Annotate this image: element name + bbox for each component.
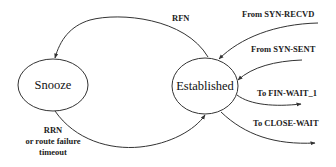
label-rrn-line3: timeout — [39, 147, 67, 157]
label-rrn-line2: or route failure — [25, 136, 80, 146]
edge-rfn — [55, 17, 208, 58]
label-from-syn-recvd: From SYN-RECVD — [242, 9, 314, 19]
edge-from-syn-sent — [238, 60, 302, 80]
label-rrn-line1: RRN — [44, 125, 63, 135]
state-established-label: Established — [176, 79, 234, 93]
label-from-syn-sent: From SYN-SENT — [251, 44, 316, 54]
label-to-fin-wait-1: To FIN-WAIT_1 — [257, 88, 317, 98]
state-diagram: RFN RRN or route failure timeout From SY… — [0, 0, 336, 167]
state-snooze-label: Snooze — [35, 78, 72, 92]
label-to-close-wait: To CLOSE-WAIT — [253, 118, 319, 128]
label-rfn: RFN — [172, 13, 190, 23]
